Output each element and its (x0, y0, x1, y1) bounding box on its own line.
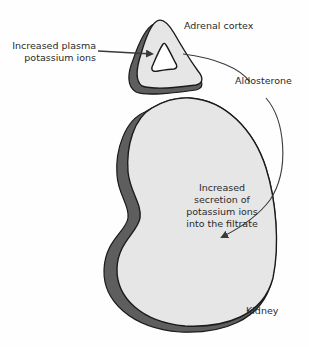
kidney-label: Kidney (246, 305, 278, 317)
stimulus-label-line2: potassium ions (2, 52, 96, 64)
aldosterone-label: Aldosterone (235, 75, 292, 87)
adrenal-cortex-label: Adrenal cortex (184, 20, 253, 32)
effect-label-line4: into the filtrate (172, 218, 272, 230)
effect-label-line2: secretion of (172, 194, 272, 206)
stimulus-label-line1: Increased plasma (2, 40, 96, 52)
diagram-canvas: Increased plasma potassium ions Adrenal … (0, 0, 309, 347)
stimulus-label: Increased plasma potassium ions (2, 40, 96, 64)
effect-label-line3: potassium ions (172, 206, 272, 218)
effect-label-line1: Increased (172, 182, 272, 194)
effect-label: Increased secretion of potassium ions in… (172, 182, 272, 230)
